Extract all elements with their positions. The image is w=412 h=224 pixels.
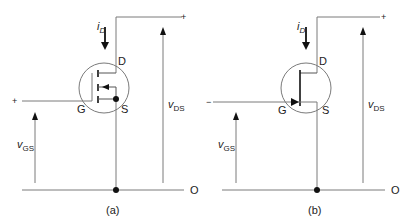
caption-a: (a) xyxy=(106,204,119,216)
panel-b xyxy=(213,17,385,190)
gate-plus-sign: + xyxy=(12,96,17,106)
vds-label: vDS xyxy=(168,98,185,113)
id-label: iD xyxy=(297,20,305,35)
ground-node-dot xyxy=(113,187,119,193)
drain-label: D xyxy=(319,55,327,67)
terminal-label: O xyxy=(190,184,199,196)
vds-arrowhead-icon xyxy=(360,27,366,35)
panel-b-solids xyxy=(233,27,366,193)
drain-label: D xyxy=(118,55,126,67)
vgs-label: vGS xyxy=(17,138,34,153)
vgs-label: vGS xyxy=(218,138,235,153)
gate-minus-sign: − xyxy=(206,97,211,107)
id-label: iD xyxy=(97,20,105,35)
source-node-dot xyxy=(113,96,119,102)
source-wire xyxy=(300,102,317,190)
vgs-arrowhead-icon xyxy=(32,112,38,120)
gate-label: G xyxy=(77,103,86,115)
id-arrowhead-icon xyxy=(302,42,310,50)
terminal-label: O xyxy=(391,184,400,196)
circuit-diagram: iD D G S + + vGS vDS O (a) iD D G S − xyxy=(0,0,412,224)
vds-arrowhead-icon xyxy=(160,27,166,35)
body-arrow-icon xyxy=(102,84,109,90)
ground-node-dot xyxy=(314,187,320,193)
source-label: S xyxy=(322,104,329,116)
panel-a-solids xyxy=(32,27,166,193)
gate-arrow-icon xyxy=(291,98,299,106)
gate-label: G xyxy=(278,104,287,116)
caption-b: (b) xyxy=(308,204,321,216)
source-label: S xyxy=(121,103,128,115)
id-arrowhead-icon xyxy=(101,42,109,50)
drain-plus-sign: + xyxy=(381,12,386,22)
vds-label: vDS xyxy=(368,98,385,113)
drain-plus-sign: + xyxy=(181,12,186,22)
vgs-arrowhead-icon xyxy=(233,112,239,120)
